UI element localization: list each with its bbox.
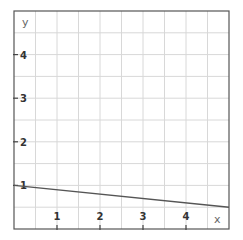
line-chart: 12341234 y x (0, 0, 243, 240)
y-tick-label: 3 (20, 93, 27, 104)
y-axis-label: y (22, 16, 29, 29)
x-tick-label: 1 (54, 211, 61, 222)
x-axis-label: x (214, 213, 221, 226)
x-tick-label: 4 (183, 211, 190, 222)
x-tick-label: 2 (97, 211, 104, 222)
x-tick-label: 3 (140, 211, 147, 222)
y-tick-label: 2 (20, 137, 27, 148)
y-tick-label: 4 (20, 50, 27, 61)
